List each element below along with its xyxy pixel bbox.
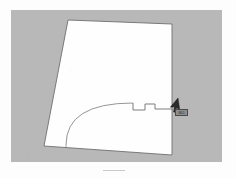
- cursor-tooltip-text: 84.1: [177, 110, 187, 115]
- bottom-tick: [103, 170, 125, 171]
- cursor-layer: [0, 0, 236, 178]
- drawing-root: 84.1: [0, 0, 236, 178]
- cursor-svg: [0, 0, 236, 178]
- cursor-tooltip: 84.1: [175, 109, 188, 116]
